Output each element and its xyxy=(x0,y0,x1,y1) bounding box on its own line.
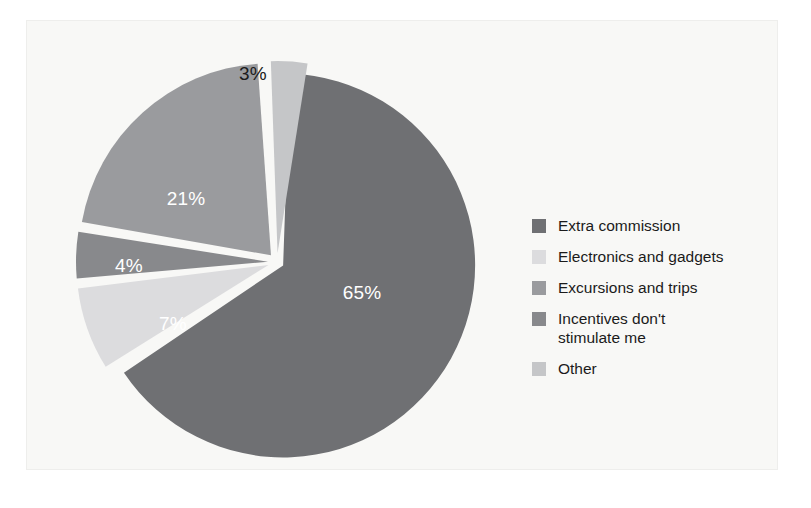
pie-slice-label: 4% xyxy=(115,255,143,276)
pie-slice-label: 7% xyxy=(159,313,187,334)
chart-page: 65%7%21%4%3% Extra commission Electronic… xyxy=(0,0,811,508)
legend-swatch-excursions-and-trips xyxy=(532,281,546,295)
legend-item-electronics-and-gadgets[interactable]: Electronics and gadgets xyxy=(532,247,768,266)
legend-item-extra-commission[interactable]: Extra commission xyxy=(532,216,768,235)
legend-swatch-other xyxy=(532,362,546,376)
legend-label-excursions-and-trips: Excursions and trips xyxy=(558,278,698,297)
legend-item-excursions-and-trips[interactable]: Excursions and trips xyxy=(532,278,768,297)
legend-label-electronics-and-gadgets: Electronics and gadgets xyxy=(558,247,723,266)
legend-swatch-electronics-and-gadgets xyxy=(532,250,546,264)
legend-swatch-incentives-dont-stimulate-me xyxy=(532,312,546,326)
legend-item-incentives-dont-stimulate-me[interactable]: Incentives don't stimulate me xyxy=(532,309,768,347)
legend-label-other: Other xyxy=(558,359,597,378)
legend-label-incentives-dont-stimulate-me: Incentives don't stimulate me xyxy=(558,309,665,347)
pie-slice[interactable] xyxy=(82,64,271,256)
legend-label-extra-commission: Extra commission xyxy=(558,216,680,235)
legend: Extra commission Electronics and gadgets… xyxy=(532,216,768,378)
pie-slice-label: 65% xyxy=(343,282,382,303)
legend-swatch-extra-commission xyxy=(532,219,546,233)
legend-item-other[interactable]: Other xyxy=(532,359,768,378)
pie-slice-label: 3% xyxy=(239,63,267,84)
pie-slice-label: 21% xyxy=(167,188,206,209)
